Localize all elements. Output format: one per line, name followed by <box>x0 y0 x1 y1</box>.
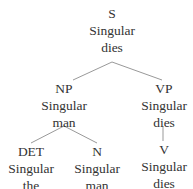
node-n: N Singular man <box>74 143 120 189</box>
node-s: S Singular dies <box>89 5 135 56</box>
node-label: V <box>141 141 187 158</box>
node-word: the <box>8 177 54 189</box>
node-vp: VP Singular dies <box>141 80 187 131</box>
node-label: VP <box>141 80 187 97</box>
node-feature: Singular <box>89 22 135 39</box>
node-word: dies <box>89 39 135 56</box>
edge-s-vp <box>112 62 162 80</box>
node-feature: Singular <box>41 97 87 114</box>
node-label: S <box>89 5 135 22</box>
edge-s-np <box>73 62 112 80</box>
node-feature: Singular <box>74 160 120 177</box>
node-label: N <box>74 143 120 160</box>
node-word: man <box>74 177 120 189</box>
node-np: NP Singular man <box>41 80 87 131</box>
node-feature: Singular <box>141 158 187 175</box>
node-feature: Singular <box>8 160 54 177</box>
node-word: man <box>41 114 87 131</box>
node-feature: Singular <box>141 97 187 114</box>
node-label: DET <box>8 143 54 160</box>
node-label: NP <box>41 80 87 97</box>
node-word: dies <box>141 175 187 189</box>
node-word: dies <box>141 114 187 131</box>
node-v: V Singular dies <box>141 141 187 189</box>
node-det: DET Singular the <box>8 143 54 189</box>
